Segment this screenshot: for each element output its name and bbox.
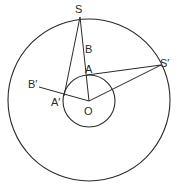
segment-b-prime-o <box>39 87 89 101</box>
label-s: S <box>75 3 82 15</box>
label-a: A <box>85 63 93 75</box>
concentric-circles-diagram: S B A S′ B′ A′ O <box>0 0 180 196</box>
segment-s-prime-o <box>89 65 161 101</box>
label-a-prime: A′ <box>51 96 60 108</box>
segment-s-o <box>80 17 89 101</box>
label-b-prime: B′ <box>28 78 37 90</box>
label-b: B <box>85 43 92 55</box>
label-o: O <box>84 105 93 117</box>
segment-s-a-prime <box>64 17 80 96</box>
label-s-prime: S′ <box>160 57 169 69</box>
